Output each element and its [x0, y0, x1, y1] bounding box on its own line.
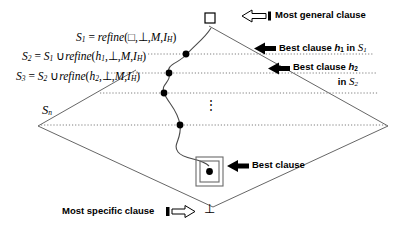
- lattice-edge-bottom-left: [38, 126, 213, 207]
- annotation-most-specific-label: Most specific clause: [62, 205, 154, 216]
- annotation-best-h1-prefix: Best clause: [279, 42, 332, 53]
- most-general-clause-box: [205, 13, 215, 23]
- search-path-curve: [163, 28, 211, 166]
- equation-s2-text: S2 = S1 ∪refine(h1,⊥,M,IH): [22, 50, 146, 62]
- annotation-best-clause-label: Best clause: [252, 159, 305, 170]
- search-path-nodes: [161, 51, 190, 129]
- annotation-best-h2-prefix: Best clause: [293, 61, 346, 72]
- annotation-most-specific: Most specific clause: [62, 206, 154, 216]
- annotation-most-general: Most general clause: [275, 10, 366, 20]
- path-node-2: [166, 70, 173, 77]
- equation-sn-text: Sn: [42, 103, 52, 117]
- best-clause-node: [206, 168, 213, 175]
- annotation-best-h2-mid: in: [338, 76, 346, 87]
- equation-s2: S2 = S1 ∪refine(h1,⊥,M,IH): [22, 50, 146, 63]
- figure-canvas: S1 = refine(□,⊥,M,IH) S2 = S1 ∪refine(h1…: [0, 0, 409, 232]
- annotation-best-h2: Best clause h2 in S2: [293, 62, 358, 88]
- best-clause-h2-arrow: [268, 63, 290, 75]
- path-node-4: [177, 122, 184, 129]
- annotation-best-clause: Best clause: [252, 160, 305, 170]
- most-specific-clause-symbol: ⊥: [204, 202, 215, 216]
- equation-sn: Sn: [42, 104, 52, 117]
- best-clause-arrow: [227, 160, 249, 172]
- ellipsis-vertical: ⋮: [205, 99, 217, 112]
- annotation-best-h2-line1: Best clause h2: [293, 62, 358, 73]
- annotation-best-h1: Best clause h1 in S1: [279, 42, 367, 54]
- path-node-1: [183, 51, 190, 58]
- annotation-best-h1-mid: in: [347, 42, 355, 53]
- path-node-3: [161, 90, 168, 97]
- best-clause-marker: [196, 157, 223, 186]
- lattice-diagram: [0, 0, 409, 232]
- ellipsis-glyph: ⋮: [205, 98, 217, 112]
- most-general-clause-arrow: [242, 10, 271, 22]
- equation-s3-text: S3 = S2 ∪refine(h2,⊥,M,IH): [16, 70, 140, 82]
- annotation-most-general-label: Most general clause: [275, 9, 366, 20]
- bottom-glyph: ⊥: [204, 201, 215, 216]
- equation-s3: S3 = S2 ∪refine(h2,⊥,M,IH): [16, 70, 140, 83]
- annotation-best-h2-line2: in S2: [293, 76, 358, 88]
- most-specific-clause-arrow: [166, 206, 195, 218]
- equation-s1-text: S1 = refine(□,⊥,M,IH): [76, 31, 176, 43]
- equation-s1: S1 = refine(□,⊥,M,IH): [76, 31, 176, 44]
